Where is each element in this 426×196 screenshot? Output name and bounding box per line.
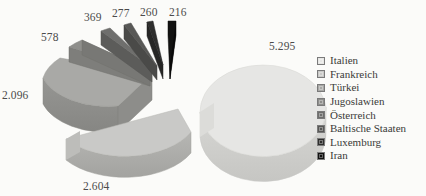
legend-item-label: Baltische Staaten [330,123,406,134]
pie-slice-italien[interactable] [200,65,326,182]
legend-item-iran[interactable]: Iran [317,149,425,163]
legend-swatch-icon [317,84,325,92]
legend-item-jugoslawien[interactable]: Jugoslawien [317,95,425,109]
legend-swatch-icon [317,70,325,78]
legend-swatch-icon [317,57,325,65]
legend-swatch-icon [317,138,325,146]
legend-item-label: Frankreich [330,69,378,80]
pie-slice-iran[interactable] [168,21,176,79]
legend-item-italien[interactable]: Italien [317,54,425,68]
legend-item-label: Luxemburg [330,137,381,148]
data-label-578: 578 [41,31,59,43]
data-label-5295: 5.295 [269,40,295,52]
data-label-216: 216 [169,6,187,18]
legend-item-label: Iran [330,150,348,161]
legend-swatch-icon [317,152,325,160]
legend-item-label: Jugoslawien [330,96,384,107]
pie-chart-figure: 578 369 277 260 216 2.096 2.604 5.295 It… [0,0,426,196]
legend-item-tuerkei[interactable]: Türkei [317,81,425,95]
data-label-369: 369 [84,11,102,23]
legend-item-oesterreich[interactable]: Österreich [317,108,425,122]
legend-item-baltische-staaten[interactable]: Baltische Staaten [317,122,425,136]
legend-item-frankreich[interactable]: Frankreich [317,68,425,82]
legend-item-luxemburg[interactable]: Luxemburg [317,136,425,150]
data-label-277: 277 [112,7,130,19]
legend-swatch-icon [317,98,325,106]
legend-item-label: Türkei [330,82,359,93]
data-label-260: 260 [140,6,158,18]
legend-swatch-icon [317,125,325,133]
legend-item-label: Österreich [330,110,376,121]
chart-legend: Italien Frankreich Türkei Jugoslawien Ös… [317,54,425,163]
data-label-2096: 2.096 [2,89,28,101]
legend-swatch-icon [317,111,325,119]
legend-item-label: Italien [330,55,358,66]
data-label-2604: 2.604 [83,180,109,192]
